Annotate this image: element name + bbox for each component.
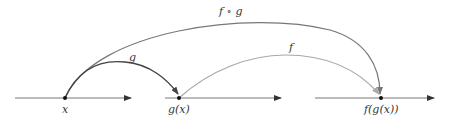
- label-point-x: x: [62, 104, 68, 115]
- label-fog: f ∘ g: [219, 6, 243, 17]
- f-arrow-curve: [179, 55, 379, 98]
- label-f: f: [289, 42, 293, 53]
- fog-arrow-curve: [65, 23, 380, 98]
- label-point-fgx: f(g(x)): [364, 104, 398, 115]
- point-fgx: [379, 96, 383, 100]
- label-point-gx: g(x): [168, 104, 190, 115]
- point-gx: [177, 96, 181, 100]
- label-g: g: [129, 52, 136, 63]
- point-x: [63, 96, 67, 100]
- g-arrow-curve: [65, 62, 178, 98]
- function-composition-diagram: f ∘ g g f x g(x) f(g(x)): [0, 0, 449, 117]
